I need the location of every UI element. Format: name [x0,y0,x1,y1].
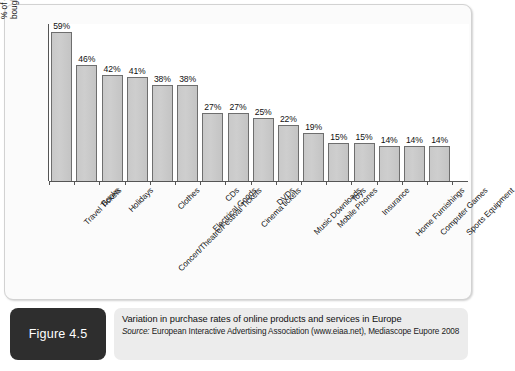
bar-value-label: 42% [104,64,121,74]
bars-area: 59%46%42%41%38%38%27%27%25%22%19%15%15%1… [49,24,468,181]
category-label: Insurance [380,186,411,217]
caption-source: Source: European Interactive Advertising… [122,326,460,337]
caption-row: Figure 4.5 Variation in purchase rates o… [4,306,472,365]
y-axis-label-line-2: bought products/service online [9,0,19,19]
bar-group: 22% [278,24,299,181]
x-axis-tick [301,181,302,185]
figure-number-tag: Figure 4.5 [10,308,106,360]
category-label: Holidays [127,186,155,214]
x-axis-tick [125,181,126,185]
bar-value-label: 38% [154,74,171,84]
bar-group: 14% [404,24,425,181]
bar [202,113,223,181]
bar-group: 27% [202,24,223,181]
x-axis-line [49,181,468,182]
y-axis-label: % of online shoppers who bought products… [0,0,19,19]
bar [177,85,198,181]
x-axis-tick [326,181,327,185]
bar-value-label: 38% [179,74,196,84]
bar-group: 15% [354,24,375,181]
bar-group: 46% [76,24,97,181]
bar-value-label: 46% [78,54,95,64]
bar [303,133,324,181]
bar-group: 15% [328,24,349,181]
bar-value-label: 25% [255,107,272,117]
bar-group: 25% [253,24,274,181]
bar-value-label: 27% [204,102,221,112]
bar-value-label: 59% [53,21,70,31]
bar-group: 14% [429,24,450,181]
bar-group: 38% [152,24,173,181]
caption-source-text: European Interactive Advertising Associa… [150,327,460,336]
bar [102,75,123,181]
bar-group: 19% [303,24,324,181]
bar-value-label: 22% [280,114,297,124]
x-axis-tick [402,181,403,185]
y-axis-label-line-1: % of online shoppers who [0,0,9,19]
bar-value-label: 27% [230,102,247,112]
bar [253,118,274,181]
bar [51,32,72,181]
bar-value-label: 19% [305,122,322,132]
bar [404,146,425,181]
x-axis-tick [74,181,75,185]
bar-value-label: 14% [431,135,448,145]
bar-group: 59% [51,24,72,181]
caption-source-prefix: Source: [122,327,150,336]
caption-title: Variation in purchase rates of online pr… [122,313,460,325]
bar [354,143,375,181]
bar [278,125,299,181]
x-axis-tick [150,181,151,185]
x-axis-tick [225,181,226,185]
x-axis-tick [49,181,50,185]
bar-group: 42% [102,24,123,181]
bar [228,113,249,181]
bar-value-label: 41% [129,66,146,76]
x-axis-tick [427,181,428,185]
bar-value-label: 15% [330,132,347,142]
x-axis-tick [251,181,252,185]
bar-group: 14% [379,24,400,181]
bar [328,143,349,181]
category-label: Sports Equipment [464,186,515,237]
bar [127,77,148,181]
category-axis-labels: Travel TicketsBooksHolidaysConcert/Theat… [49,186,479,298]
x-axis-tick [200,181,201,185]
x-axis-tick [351,181,352,185]
bar-value-label: 15% [356,132,373,142]
bar [152,85,173,181]
bar [379,146,400,181]
bar-group: 41% [127,24,148,181]
x-axis-tick [175,181,176,185]
bar-value-label: 14% [406,135,423,145]
category-label: Clothes [176,186,202,212]
chart-card: % of online shoppers who bought products… [4,4,472,300]
bar-group: 38% [177,24,198,181]
x-axis-tick [99,181,100,185]
x-axis-tick [452,181,453,185]
x-axis-tick [276,181,277,185]
bar-value-label: 14% [381,135,398,145]
caption-box: Variation in purchase rates of online pr… [114,308,468,360]
bar-group: 27% [228,24,249,181]
bar [429,146,450,181]
x-axis-tick [377,181,378,185]
bar [76,65,97,181]
